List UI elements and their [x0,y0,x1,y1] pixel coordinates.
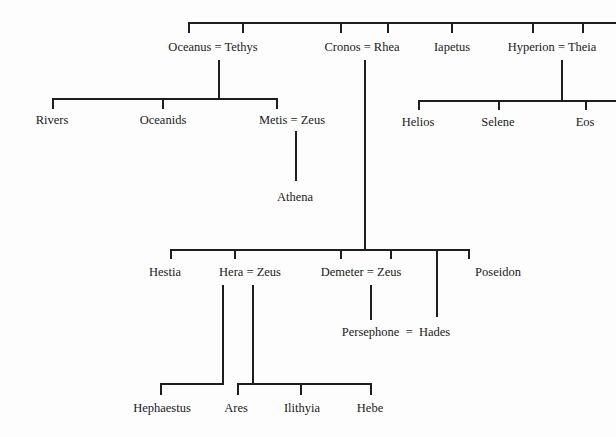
connector-line [387,22,389,33]
node-hyperion-theia: Hyperion = Theia [508,40,597,54]
node-hebe: Hebe [357,401,383,415]
connector-line [234,249,236,259]
connector-line [162,98,164,109]
node-cronos-rhea: Cronos = Rhea [324,40,399,54]
node-metis-zeus: Metis = Zeus [259,113,325,127]
node-hestia: Hestia [149,265,181,279]
node-poseidon: Poseidon [475,265,521,279]
node-oceanus-tethys: Oceanus = Tethys [168,40,257,54]
node-helios: Helios [402,115,435,129]
connector-line [498,100,500,110]
connector-line [582,22,584,33]
connector-line [468,249,470,259]
connector-line [237,383,239,395]
node-persephone-hades: Persephone = Hades [342,325,450,339]
connector-line [451,22,453,33]
connector-line [242,22,244,33]
connector-line [532,22,534,33]
genealogy-diagram: Oceanus = Tethys Cronos = Rhea Iapetus H… [0,0,616,437]
connector-line [436,249,438,317]
node-iapetus: Iapetus [434,40,470,54]
node-athena: Athena [277,190,313,204]
connector-line [561,60,563,101]
connector-line [300,383,302,395]
connector-line [340,249,342,259]
connector-line [170,249,172,259]
connector-line [218,60,220,99]
node-rivers: Rivers [36,113,69,127]
connector-line [276,98,278,109]
connector-line [295,131,297,181]
connector-line [188,22,190,33]
connector-line [418,100,420,110]
node-eos: Eos [576,115,595,129]
connector-line [390,249,392,259]
connector-line [170,249,470,251]
connector-line [222,285,224,385]
connector-line [364,60,366,250]
connector-line [340,22,342,33]
connector-line [585,100,587,110]
node-ilithyia: Ilithyia [284,401,320,415]
node-hera-zeus: Hera = Zeus [219,265,281,279]
connector-line [237,383,372,385]
connector-line [52,98,278,100]
node-oceanids: Oceanids [140,113,187,127]
node-selene: Selene [481,115,514,129]
node-ares: Ares [224,401,248,415]
connector-line [160,383,162,395]
node-hephaestus: Hephaestus [133,401,191,415]
connector-line [160,383,224,385]
connector-line [370,285,372,320]
node-demeter-zeus: Demeter = Zeus [321,265,402,279]
connector-line [370,383,372,395]
connector-line [252,285,254,385]
connector-line [52,98,54,109]
connector-line [188,22,616,24]
